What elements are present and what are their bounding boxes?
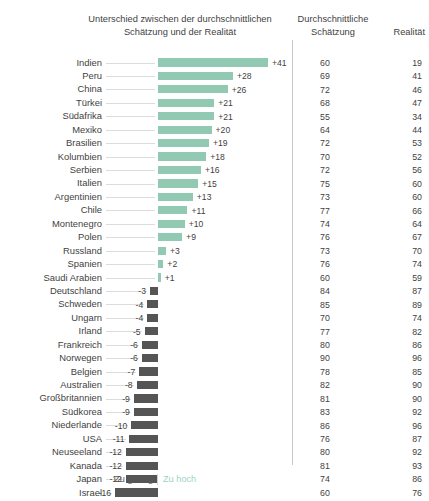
bar-positive bbox=[158, 260, 163, 268]
column-header-reality: Realität bbox=[370, 26, 425, 39]
cell-reality: 46 bbox=[372, 84, 422, 96]
bar-positive bbox=[158, 273, 161, 281]
legend-divider bbox=[157, 474, 158, 485]
row-leader-line bbox=[106, 63, 155, 64]
cell-average-estimate: 77 bbox=[300, 326, 350, 338]
cell-reality: 67 bbox=[372, 231, 422, 243]
bar-value-label: +9 bbox=[186, 231, 196, 243]
bar-positive bbox=[158, 72, 233, 80]
bar-negative bbox=[137, 381, 158, 389]
chart-row: Großbritannien-98190 bbox=[0, 392, 429, 405]
column-header-estimate: Durchschnittliche Schätzung bbox=[293, 13, 373, 38]
bar-value-label: -4 bbox=[99, 312, 143, 324]
row-leader-line bbox=[106, 251, 155, 252]
cell-average-estimate: 85 bbox=[300, 299, 350, 311]
bar-positive bbox=[158, 112, 214, 120]
bar-value-label: -8 bbox=[89, 379, 133, 391]
row-leader-line bbox=[106, 130, 155, 131]
bar-positive bbox=[158, 85, 228, 93]
bar-value-label: +3 bbox=[170, 245, 180, 257]
row-leader-line bbox=[106, 89, 155, 90]
chart-row: Deutschland-38487 bbox=[0, 284, 429, 297]
bar-value-label: +21 bbox=[218, 97, 233, 109]
cell-average-estimate: 73 bbox=[300, 191, 350, 203]
bar-negative bbox=[142, 341, 158, 349]
chart-row: Chile+117766 bbox=[0, 204, 429, 217]
legend-item-too-high: Zu hoch bbox=[163, 473, 283, 486]
chart-row: Türkei+216847 bbox=[0, 96, 429, 109]
bar-value-label: +20 bbox=[216, 124, 231, 136]
bar-value-label: -11 bbox=[81, 433, 125, 445]
bar-value-label: -4 bbox=[99, 299, 143, 311]
chart-row: Belgien-77885 bbox=[0, 365, 429, 378]
chart-row: Irland-57782 bbox=[0, 325, 429, 338]
bar-value-label: +16 bbox=[205, 164, 220, 176]
bar-positive bbox=[158, 233, 182, 241]
chart-row: USA-117687 bbox=[0, 432, 429, 445]
cell-reality: 64 bbox=[372, 218, 422, 230]
row-leader-line bbox=[106, 210, 155, 211]
cell-reality: 96 bbox=[372, 420, 422, 432]
bar-value-label: -6 bbox=[94, 352, 138, 364]
bar-negative bbox=[115, 488, 158, 496]
cell-average-estimate: 70 bbox=[300, 312, 350, 324]
bar-value-label: +1 bbox=[165, 272, 175, 284]
bar-value-label: -9 bbox=[86, 393, 130, 405]
chart-row: Mexiko+206444 bbox=[0, 123, 429, 136]
cell-reality: 74 bbox=[372, 312, 422, 324]
cell-reality: 92 bbox=[372, 446, 422, 458]
row-leader-line bbox=[106, 143, 155, 144]
chart-row: Indien+416019 bbox=[0, 56, 429, 69]
bar-negative bbox=[147, 300, 158, 308]
row-leader-line bbox=[106, 197, 155, 198]
row-label-country: Chile bbox=[0, 204, 102, 216]
chart-row: Kanada-128193 bbox=[0, 459, 429, 472]
row-label-country: Serbien bbox=[0, 164, 102, 176]
chart-row: Spanien+27674 bbox=[0, 258, 429, 271]
cell-average-estimate: 60 bbox=[300, 57, 350, 69]
bar-value-label: -7 bbox=[91, 366, 135, 378]
row-label-country: Indien bbox=[0, 57, 102, 69]
cell-average-estimate: 77 bbox=[300, 205, 350, 217]
cell-average-estimate: 90 bbox=[300, 352, 350, 364]
row-label-country: Südafrika bbox=[0, 110, 102, 122]
chart-row: Frankreich-68086 bbox=[0, 338, 429, 351]
cell-average-estimate: 76 bbox=[300, 433, 350, 445]
bar-positive bbox=[158, 247, 166, 255]
bar-positive bbox=[158, 152, 206, 160]
row-leader-line bbox=[106, 157, 155, 158]
bar-value-label: +10 bbox=[189, 218, 204, 230]
bar-negative bbox=[139, 367, 158, 375]
row-label-country: Ungarn bbox=[0, 312, 102, 324]
bar-value-label: +21 bbox=[218, 111, 233, 123]
bar-value-label: -3 bbox=[102, 285, 146, 297]
cell-average-estimate: 55 bbox=[300, 111, 350, 123]
cell-reality: 74 bbox=[372, 258, 422, 270]
cell-reality: 89 bbox=[372, 299, 422, 311]
chart-row: Brasilien+197253 bbox=[0, 137, 429, 150]
cell-reality: 19 bbox=[372, 57, 422, 69]
cell-reality: 87 bbox=[372, 285, 422, 297]
cell-reality: 53 bbox=[372, 137, 422, 149]
cell-reality: 44 bbox=[372, 124, 422, 136]
bar-value-label: -12 bbox=[78, 460, 122, 472]
cell-reality: 93 bbox=[372, 460, 422, 472]
row-leader-line bbox=[106, 103, 155, 104]
bar-negative bbox=[126, 462, 158, 470]
chart-row: Serbien+167256 bbox=[0, 164, 429, 177]
cell-average-estimate: 69 bbox=[300, 70, 350, 82]
bar-negative bbox=[142, 354, 158, 362]
chart-row: Südafrika+215534 bbox=[0, 110, 429, 123]
row-label-country: Belgien bbox=[0, 366, 102, 378]
cell-average-estimate: 72 bbox=[300, 164, 350, 176]
row-leader-line bbox=[106, 184, 155, 185]
chart-row: Polen+97667 bbox=[0, 231, 429, 244]
row-label-country: Deutschland bbox=[0, 285, 102, 297]
row-label-country: Italien bbox=[0, 177, 102, 189]
row-label-country: Kolumbien bbox=[0, 151, 102, 163]
bar-value-label: +13 bbox=[197, 191, 212, 203]
bar-negative bbox=[129, 435, 158, 443]
cell-reality: 47 bbox=[372, 97, 422, 109]
cell-average-estimate: 83 bbox=[300, 406, 350, 418]
bar-value-label: +2 bbox=[167, 258, 177, 270]
